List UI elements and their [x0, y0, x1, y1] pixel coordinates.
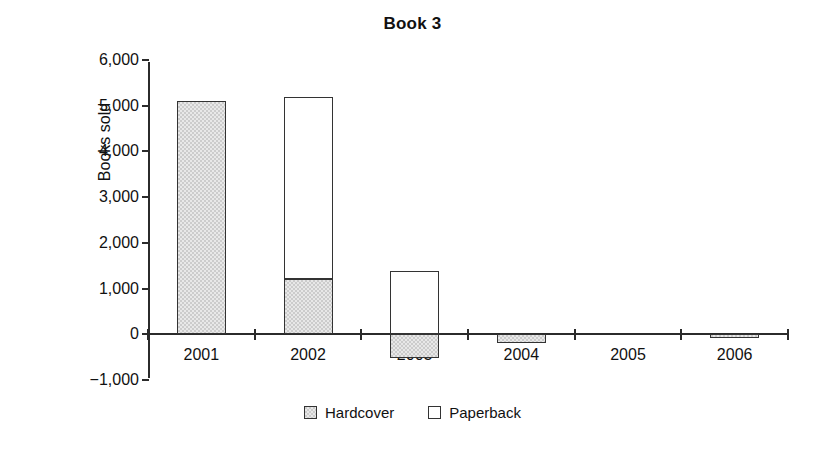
y-tick-mark: [142, 242, 149, 244]
x-tick-mark: [467, 329, 469, 340]
x-tick-mark: [254, 329, 256, 340]
x-tick-label-2002: 2002: [290, 346, 326, 364]
x-tick-mark: [787, 329, 789, 340]
plot-area: 6,0005,0004,0003,0002,0001,0000−1,000 20…: [148, 60, 788, 380]
legend-label: Paperback: [449, 404, 521, 421]
legend-item-paperback[interactable]: Paperback: [428, 404, 521, 421]
x-tick-mark: [574, 329, 576, 340]
y-tick-label: 0: [130, 325, 139, 343]
chart-title: Book 3: [0, 14, 825, 34]
chart-legend: HardcoverPaperback: [0, 404, 825, 421]
y-tick-mark: [142, 150, 149, 152]
y-tick-label: 4,000: [99, 142, 139, 160]
bar-hardcover-2003[interactable]: [390, 334, 439, 358]
y-tick-label: −1,000: [90, 371, 139, 389]
y-tick-mark: [142, 105, 149, 107]
y-tick-mark: [142, 196, 149, 198]
y-tick-label: 6,000: [99, 51, 139, 69]
x-tick-mark: [360, 329, 362, 340]
bar-paperback-2003[interactable]: [390, 271, 439, 334]
x-tick-label-2005: 2005: [610, 346, 646, 364]
bar-hardcover-2002[interactable]: [284, 279, 333, 334]
y-tick-label: 1,000: [99, 280, 139, 298]
legend-label: Hardcover: [325, 404, 394, 421]
y-tick-mark: [142, 379, 149, 381]
bar-hardcover-2006[interactable]: [710, 334, 759, 338]
y-tick-label: 5,000: [99, 97, 139, 115]
x-tick-label-2001: 2001: [184, 346, 220, 364]
y-tick-mark: [142, 59, 149, 61]
x-tick-mark: [680, 329, 682, 340]
x-tick-label-2006: 2006: [717, 346, 753, 364]
legend-swatch-icon-hardcover: [304, 406, 317, 419]
y-tick-label: 3,000: [99, 188, 139, 206]
chart-container: Book 3 Books sold 6,0005,0004,0003,0002,…: [0, 0, 825, 456]
bar-hardcover-2001[interactable]: [177, 101, 226, 334]
legend-swatch-icon-paperback: [428, 406, 441, 419]
bar-paperback-2002[interactable]: [284, 97, 333, 280]
y-tick-mark: [142, 288, 149, 290]
bar-hardcover-2004[interactable]: [497, 334, 546, 342]
legend-item-hardcover[interactable]: Hardcover: [304, 404, 394, 421]
y-tick-label: 2,000: [99, 234, 139, 252]
x-tick-mark: [147, 329, 149, 340]
x-tick-label-2004: 2004: [504, 346, 540, 364]
